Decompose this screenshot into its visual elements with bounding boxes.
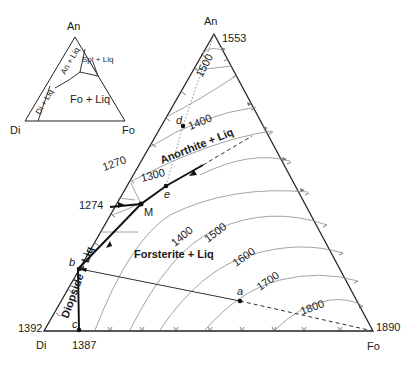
label-d: d bbox=[176, 114, 183, 126]
label-a: a bbox=[237, 285, 243, 297]
di-temp: 1392 bbox=[18, 322, 42, 334]
inset-spl-liq-label: Spl + Liq bbox=[82, 55, 113, 64]
arrow-1274 bbox=[118, 202, 125, 208]
main-diagram: An 1553 Di 1392 Fo 1890 1387 1274 1270 1… bbox=[18, 15, 400, 352]
fo-label: Fo bbox=[367, 340, 380, 352]
isotherm-1500: 1500 bbox=[202, 220, 229, 245]
temp-1270: 1270 bbox=[101, 153, 128, 173]
inset-an-liq-label: An + Liq bbox=[59, 46, 82, 76]
label-e: e bbox=[164, 188, 170, 200]
di-label: Di bbox=[36, 339, 46, 351]
phase-diagram: An Di Fo An + Liq Spl + Liq Fo + Liq Di … bbox=[0, 0, 410, 368]
isotherm-arrows bbox=[221, 47, 305, 192]
isotherm-1300: 1300 bbox=[139, 166, 166, 184]
label-b: b bbox=[69, 256, 75, 268]
inset-fo-label: Fo bbox=[122, 124, 135, 136]
fo-temp: 1890 bbox=[376, 321, 400, 333]
isotherms bbox=[95, 49, 363, 330]
point-M bbox=[139, 202, 144, 207]
isotherm-1400-top: 1400 bbox=[186, 112, 213, 132]
inset-di-label: Di bbox=[10, 124, 20, 136]
inset-di-liq-label: Di + Liq bbox=[34, 88, 55, 116]
inset-spl-liq-text: Spl + Liq bbox=[82, 55, 113, 64]
field-forsterite-liq: Forsterite + Liq bbox=[134, 248, 214, 260]
field-diopside-liq: Diopside + Liq bbox=[59, 245, 96, 320]
point-a bbox=[238, 299, 243, 304]
inset-fo-liq-label: Fo + Liq bbox=[70, 93, 110, 105]
isotherm-1700: 1700 bbox=[254, 269, 281, 293]
isotherm-1500-top: 1500 bbox=[193, 52, 215, 79]
an-temp: 1553 bbox=[222, 32, 246, 44]
temp-1274: 1274 bbox=[79, 199, 103, 211]
temp-1387: 1387 bbox=[72, 339, 96, 351]
isotherm-1600: 1600 bbox=[230, 245, 257, 269]
inset-diagram: An Di Fo An + Liq Spl + Liq Fo + Liq Di … bbox=[10, 20, 135, 136]
arrow-di-fo bbox=[106, 241, 112, 248]
an-label: An bbox=[204, 15, 217, 27]
field-anorthite-liq: Anorthite + Liq bbox=[158, 126, 235, 166]
inset-an-label: An bbox=[67, 20, 80, 32]
label-c: c bbox=[72, 318, 78, 330]
label-M: M bbox=[144, 206, 153, 218]
path-a-b bbox=[80, 269, 240, 301]
isotherm-1800: 1800 bbox=[299, 297, 326, 317]
